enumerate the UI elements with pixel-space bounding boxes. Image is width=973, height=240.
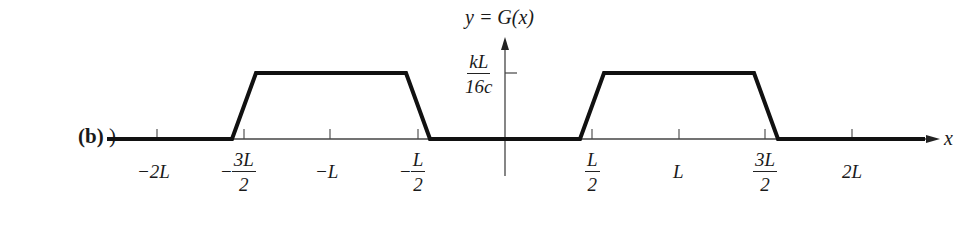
denominator: 2 — [239, 172, 249, 194]
minus-sign: − — [221, 161, 232, 183]
x-axis-arrow-icon — [926, 135, 940, 143]
denominator: 2 — [413, 172, 423, 194]
numerator: L — [411, 150, 426, 172]
x-tick-label-neg-2L: −2L — [137, 161, 170, 183]
fraction: L 2 — [411, 150, 426, 194]
denominator: 2 — [588, 172, 598, 194]
fraction: L 2 — [585, 150, 600, 194]
x-tick-label-neg-3L-2: − 3L 2 — [221, 150, 256, 194]
x-tick-label-3L-2: 3L 2 — [753, 150, 777, 194]
g-of-x-curve — [107, 73, 925, 139]
numerator: L — [585, 150, 600, 172]
numerator: 3L — [232, 150, 256, 172]
fraction: 3L 2 — [753, 150, 777, 194]
minus-sign: − — [400, 161, 411, 183]
y-axis-arrow-icon — [501, 37, 509, 50]
y-tick-denominator: 16c — [465, 74, 492, 96]
numerator: 3L — [753, 150, 777, 172]
x-axis-label: x — [944, 127, 953, 150]
x-tick-label-L-2: L 2 — [585, 150, 600, 194]
x-tick-label-L: L — [673, 161, 684, 183]
y-tick-label: kL 16c — [465, 52, 492, 96]
denominator: 2 — [760, 172, 770, 194]
fraction: 3L 2 — [232, 150, 256, 194]
x-tick-label-neg-L: −L — [315, 161, 338, 183]
x-tick-label-2L: 2L — [842, 161, 862, 183]
y-tick-numerator: kL — [467, 52, 490, 74]
x-tick-label-neg-L-2: − L 2 — [400, 150, 425, 194]
